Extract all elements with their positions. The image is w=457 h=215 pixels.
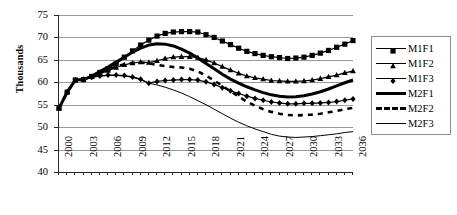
x-tick-mark (279, 172, 280, 175)
legend-label: M2F2 (406, 102, 434, 115)
data-point-marker (171, 29, 176, 34)
data-point-marker (212, 35, 217, 40)
data-point-marker (269, 99, 274, 105)
legend-swatch (376, 87, 406, 100)
data-point-marker (350, 96, 355, 102)
x-tick-mark (83, 172, 84, 175)
legend-line (376, 107, 406, 110)
chart-legend: M1F1M1F2M1F3M2F1M2F2M2F3 (371, 36, 451, 135)
x-tick-mark (352, 172, 353, 175)
data-point-marker (350, 38, 355, 43)
data-point-marker (187, 77, 192, 83)
data-point-marker (236, 46, 241, 51)
y-tick-label: 50 (0, 122, 48, 132)
data-point-marker (326, 99, 331, 105)
data-point-marker (203, 79, 208, 85)
x-tick-label: 2006 (112, 136, 124, 176)
data-point-marker (179, 77, 184, 83)
series-M1F3 (56, 72, 355, 111)
data-point-marker (310, 100, 315, 106)
x-tick-label: 2024 (259, 136, 271, 176)
data-point-marker (285, 56, 290, 61)
data-point-marker (301, 55, 306, 60)
legend-swatch (376, 117, 406, 130)
data-point-marker (195, 77, 200, 83)
data-point-marker (390, 48, 395, 53)
data-point-marker (293, 101, 298, 107)
data-point-marker (269, 54, 274, 59)
data-point-marker (220, 38, 225, 43)
data-point-marker (179, 29, 184, 34)
data-point-marker (220, 85, 225, 91)
x-tick-mark (181, 172, 182, 175)
data-point-marker (195, 29, 200, 34)
data-point-marker (228, 42, 233, 47)
legend-label: M1F3 (406, 72, 434, 85)
x-axis-tick-labels: 2000200320062009201220152018202120242027… (58, 174, 352, 214)
data-point-marker (342, 97, 347, 103)
x-tick-label: 2021 (235, 136, 247, 176)
data-point-marker (285, 101, 290, 107)
legend-swatch (376, 102, 406, 115)
legend-label: M1F1 (406, 42, 434, 55)
x-tick-label: 2036 (357, 136, 369, 176)
x-tick-mark (328, 172, 329, 175)
legend-item-M2F2: M2F2 (376, 101, 447, 116)
x-tick-label: 2027 (284, 136, 296, 176)
data-point-marker (163, 77, 168, 83)
data-point-marker (334, 99, 339, 105)
chart-figure: Thousands 7570656055504540 2000200320062… (0, 0, 457, 215)
data-point-marker (244, 49, 249, 54)
series-line (59, 76, 353, 138)
x-tick-label: 2000 (63, 136, 75, 176)
legend-item-M2F1: M2F1 (376, 86, 447, 101)
y-tick-label: 70 (0, 32, 48, 42)
x-tick-label: 2015 (186, 136, 198, 176)
x-tick-label: 2018 (210, 136, 222, 176)
series-M2F3 (59, 76, 353, 138)
x-tick-label: 2009 (137, 136, 149, 176)
x-tick-mark (254, 172, 255, 175)
data-point-marker (171, 77, 176, 83)
legend-label: M1F2 (406, 57, 434, 70)
data-point-marker (252, 95, 257, 101)
x-tick-label: 2012 (161, 136, 173, 176)
legend-marker (387, 75, 399, 87)
x-tick-label: 2003 (88, 136, 100, 176)
x-tick-mark (230, 172, 231, 175)
data-point-marker (261, 97, 266, 103)
data-point-marker (277, 55, 282, 60)
y-axis-tick-labels: 7570656055504540 (0, 15, 54, 172)
x-tick-mark (303, 172, 304, 175)
legend-item-M1F1: M1F1 (376, 41, 447, 56)
y-tick-label: 55 (0, 100, 48, 110)
y-tick-label: 60 (0, 77, 48, 87)
x-tick-mark (58, 172, 59, 175)
legend-label: M2F1 (406, 87, 434, 100)
x-tick-label: 2030 (308, 136, 320, 176)
data-point-marker (350, 68, 356, 73)
data-point-marker (163, 31, 168, 36)
legend-item-M2F3: M2F3 (376, 116, 447, 131)
legend-marker (387, 45, 399, 57)
x-tick-mark (205, 172, 206, 175)
legend-item-M1F3: M1F3 (376, 71, 447, 86)
data-point-marker (203, 32, 208, 37)
data-point-marker (154, 78, 159, 84)
legend-label: M2F3 (406, 117, 434, 130)
data-point-marker (154, 33, 159, 38)
data-point-marker (390, 63, 396, 68)
legend-swatch (376, 72, 406, 85)
data-point-marker (334, 45, 339, 50)
legend-swatch (376, 57, 406, 70)
legend-item-M1F2: M1F2 (376, 56, 447, 71)
legend-marker (387, 60, 399, 72)
data-point-marker (293, 55, 298, 60)
legend-swatch (376, 42, 406, 55)
data-point-marker (318, 100, 323, 106)
x-tick-mark (132, 172, 133, 175)
data-point-marker (310, 53, 315, 58)
data-point-marker (187, 29, 192, 34)
series-M2F2 (59, 63, 353, 116)
y-tick-label: 45 (0, 145, 48, 155)
